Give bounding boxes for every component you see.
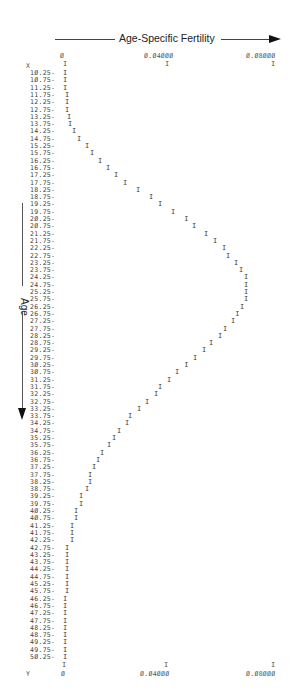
data-point: I [149,193,153,201]
bottom-tick-2: Ø.Ø8ØØØ [246,670,276,678]
data-point: I [193,354,197,362]
data-point: I [114,171,118,179]
data-point: I [184,361,188,369]
age-row-label: 5Ø.25- [30,653,55,661]
value-axis-title: Age-Specific Fertility [119,32,215,44]
data-point: I [70,536,74,544]
data-point: I [74,514,78,522]
data-point: I [167,376,171,384]
bottom-tickmark-0: I [62,661,66,669]
title-axis-line-left [55,39,115,40]
age-axis-line-bottom [22,312,23,410]
top-tickmark-0: I [63,60,67,68]
data-point: I [204,230,208,238]
corner-label-y: Y [26,670,30,678]
data-point: I [107,441,111,449]
age-axis-title: Age [19,298,30,316]
top-tick-0: Ø [60,52,64,60]
data-point: I [209,339,213,347]
data-point: I [100,449,104,457]
data-point: I [226,252,230,260]
bottom-tick-0: Ø [61,670,65,678]
data-point: I [223,325,227,333]
data-point: I [231,317,235,325]
data-point: I [145,398,149,406]
data-point: I [171,208,175,216]
data-point: I [218,332,222,340]
data-point: I [136,186,140,194]
data-point: I [63,653,67,661]
bottom-tick-1: Ø.Ø4ØØØ [140,670,170,678]
top-tick-2: Ø.Ø8ØØØ [246,52,276,60]
data-point: I [234,259,238,267]
data-point: I [154,390,158,398]
data-point: I [240,303,244,311]
data-point: I [202,346,206,354]
data-point: I [112,434,116,442]
data-point: I [123,179,127,187]
arrow-down-icon [18,408,26,420]
data-point: I [175,368,179,376]
data-point: I [92,463,96,471]
bottom-tickmark-1: I [164,661,168,669]
data-point: I [244,295,248,303]
data-point: I [117,427,121,435]
top-tickmark-2: I [271,60,275,68]
data-point: I [90,149,94,157]
data-point: I [77,135,81,143]
bottom-tickmark-2: I [271,661,275,669]
arrow-right-icon [269,35,281,43]
data-point: I [85,142,89,150]
data-point: I [79,500,83,508]
top-tickmark-1: I [165,60,169,68]
data-point: I [213,237,217,245]
chart-title: Age-Specific Fertility [55,32,283,46]
data-point: I [96,456,100,464]
data-point: I [72,127,76,135]
data-point: I [239,266,243,274]
data-point: I [158,383,162,391]
top-tick-1: Ø.Ø4ØØØ [144,52,174,60]
data-point: I [98,157,102,165]
age-axis-line-top [22,203,23,286]
data-point: I [192,222,196,230]
data-point: I [106,164,110,172]
data-point: I [184,215,188,223]
title-axis-line-right [221,39,273,40]
data-point: I [235,310,239,318]
data-point: I [85,485,89,493]
data-point: I [137,405,141,413]
data-point: I [158,200,162,208]
data-point: I [125,419,129,427]
